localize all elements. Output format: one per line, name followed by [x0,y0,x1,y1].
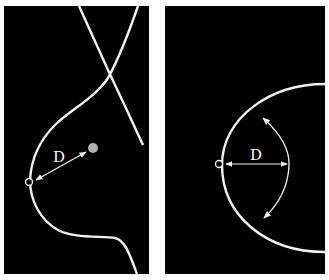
breast-contour-lateral [30,6,138,274]
nipple-marker-icon [26,179,33,186]
nipple-marker-icon [216,161,223,168]
distance-label-lateral: D [53,148,65,166]
rotation-arc-arrow [263,118,289,218]
breast-contour-frontal [222,84,325,252]
chest-wall-line [79,6,143,145]
left-diagram: D [26,6,144,274]
diagram-canvas: D D [0,0,329,280]
right-diagram: D [216,84,326,252]
lesion-dot [88,143,98,153]
distance-label-frontal: D [250,146,262,164]
